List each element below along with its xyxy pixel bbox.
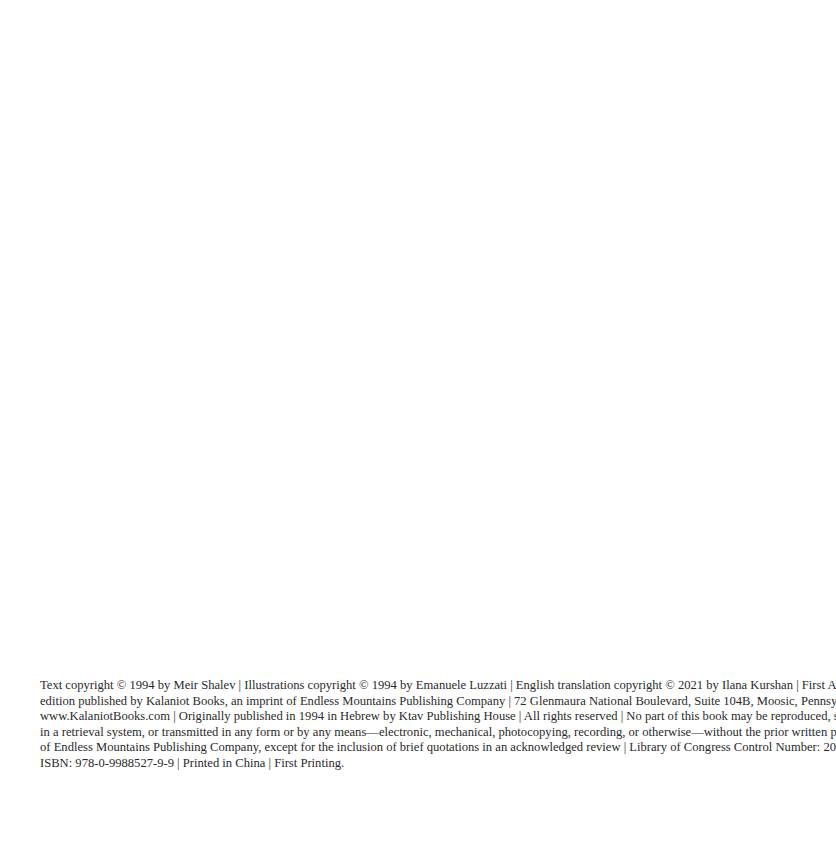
copyright-line-5: of Endless Mountains Publishing Company,… xyxy=(40,740,797,756)
copyright-notice: Text copyright © 1994 by Meir Shalev | I… xyxy=(40,678,797,772)
copyright-line-2: edition published by Kalaniot Books, an … xyxy=(40,694,797,710)
copyright-line-4: in a retrieval system, or transmitted in… xyxy=(40,725,797,741)
copyright-line-1: Text copyright © 1994 by Meir Shalev | I… xyxy=(40,678,797,694)
copyright-line-6: ISBN: 978-0-9988527-9-9 | Printed in Chi… xyxy=(40,756,797,772)
copyright-line-3: www.KalaniotBooks.com | Originally publi… xyxy=(40,709,797,725)
